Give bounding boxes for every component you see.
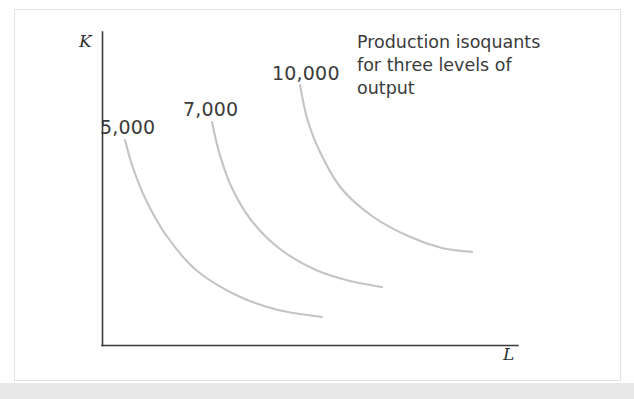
isoquant-label-7000: 7,000: [183, 100, 238, 119]
chart-annotation: Production isoquants for three levels of…: [357, 31, 540, 100]
y-axis-label: K: [79, 33, 92, 50]
annotation-line-2: for three levels of: [357, 54, 540, 77]
isoquant-label-10000: 10,000: [272, 64, 340, 83]
figure-root: K L 5,000 7,000 10,000 Production isoqua…: [0, 0, 634, 399]
x-axis-label: L: [503, 346, 514, 363]
annotation-line-3: output: [357, 77, 540, 100]
isoquant-label-5000: 5,000: [100, 118, 155, 137]
annotation-line-1: Production isoquants: [357, 31, 540, 54]
bottom-gray-band: [0, 383, 634, 399]
